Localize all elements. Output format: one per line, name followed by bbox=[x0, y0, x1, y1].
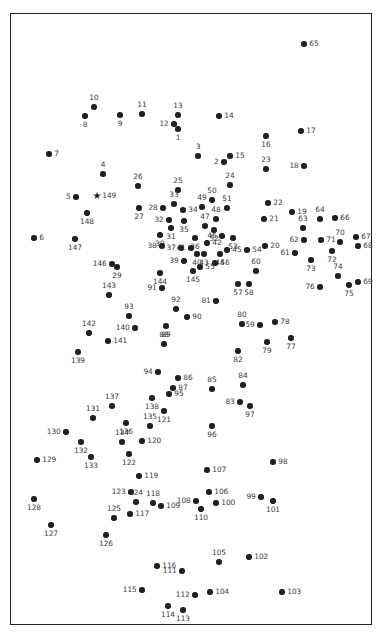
point-label: 9 bbox=[118, 120, 123, 128]
point-label: 104 bbox=[215, 588, 229, 596]
scatter-point bbox=[335, 273, 340, 278]
point-label: 100 bbox=[221, 499, 235, 507]
scatter-point bbox=[346, 282, 351, 287]
point-label: 121 bbox=[157, 416, 171, 424]
scatter-point bbox=[106, 292, 111, 297]
point-label: 117 bbox=[135, 510, 149, 518]
point-label: 33 bbox=[169, 191, 178, 199]
scatter-point bbox=[73, 194, 78, 199]
scatter-point bbox=[353, 234, 358, 239]
point-label: 118 bbox=[146, 490, 160, 498]
scatter-point bbox=[288, 335, 293, 340]
point-label: 18 bbox=[289, 162, 298, 170]
scatter-point bbox=[318, 237, 323, 242]
scatter-point bbox=[155, 369, 160, 374]
scatter-point bbox=[86, 330, 91, 335]
point-label: 133 bbox=[84, 462, 98, 470]
point-label: 141 bbox=[113, 337, 127, 345]
scatter-point bbox=[88, 454, 93, 459]
point-label: 39 bbox=[169, 257, 178, 265]
point-label: 31 bbox=[166, 233, 175, 241]
point-label: 51 bbox=[222, 195, 231, 203]
scatter-point bbox=[235, 348, 240, 353]
point-label: 137 bbox=[105, 393, 119, 401]
point-label: 99 bbox=[246, 493, 255, 501]
scatter-points-layer: 1234567891011121314151617181920212223242… bbox=[11, 14, 373, 626]
scatter-point bbox=[246, 554, 251, 559]
scatter-point bbox=[213, 298, 218, 303]
scatter-point bbox=[181, 218, 186, 223]
scatter-point bbox=[207, 589, 212, 594]
scatter-point bbox=[165, 603, 170, 608]
scatter-point bbox=[175, 112, 180, 117]
scatter-point bbox=[82, 113, 87, 118]
scatter-point bbox=[161, 341, 166, 346]
point-label: 32 bbox=[154, 216, 163, 224]
point-label: 94 bbox=[143, 368, 152, 376]
figure-container: 1234567891011121314151617181920212223242… bbox=[0, 0, 382, 641]
point-label: 144 bbox=[153, 278, 167, 286]
scatter-point bbox=[301, 237, 306, 242]
point-label: 115 bbox=[123, 586, 137, 594]
scatter-point bbox=[213, 500, 218, 505]
point-label: 84 bbox=[238, 372, 247, 380]
point-label: 90 bbox=[192, 313, 201, 321]
scatter-point bbox=[31, 235, 36, 240]
point-label: 127 bbox=[44, 530, 58, 538]
scatter-point bbox=[100, 171, 105, 176]
scatter-point bbox=[263, 133, 268, 138]
scatter-point bbox=[181, 258, 186, 263]
scatter-point bbox=[135, 183, 140, 188]
point-label: 14 bbox=[224, 112, 233, 120]
point-label: 92 bbox=[171, 296, 180, 304]
scatter-point bbox=[262, 243, 267, 248]
point-label: 128 bbox=[27, 504, 41, 512]
scatter-point bbox=[132, 325, 137, 330]
scatter-point bbox=[270, 498, 275, 503]
scatter-point bbox=[197, 264, 202, 269]
scatter-point bbox=[289, 209, 294, 214]
point-label: 122 bbox=[122, 459, 136, 467]
point-label: 138 bbox=[145, 403, 159, 411]
point-label: 146 bbox=[93, 260, 107, 268]
point-label: 16 bbox=[261, 141, 270, 149]
scatter-point bbox=[337, 239, 342, 244]
scatter-point bbox=[160, 205, 165, 210]
scatter-point bbox=[147, 423, 152, 428]
point-label: 124 bbox=[129, 489, 143, 497]
scatter-point bbox=[264, 339, 269, 344]
scatter-point bbox=[139, 438, 144, 443]
point-label: 116 bbox=[162, 562, 176, 570]
scatter-point bbox=[114, 264, 119, 269]
point-label: 57 bbox=[233, 289, 242, 297]
point-label: 2 bbox=[214, 158, 219, 166]
point-label: 102 bbox=[254, 553, 268, 561]
scatter-point bbox=[301, 41, 306, 46]
point-label: 27 bbox=[134, 213, 143, 221]
scatter-point bbox=[133, 499, 138, 504]
scatter-point bbox=[188, 245, 193, 250]
point-label: 76 bbox=[305, 283, 314, 291]
scatter-point bbox=[301, 163, 306, 168]
point-label: 22 bbox=[273, 199, 282, 207]
point-label: 105 bbox=[212, 549, 226, 557]
point-label: 48 bbox=[211, 206, 220, 214]
point-label: 23 bbox=[261, 156, 270, 164]
scatter-point bbox=[317, 284, 322, 289]
scatter-point bbox=[221, 159, 226, 164]
point-label: 78 bbox=[280, 318, 289, 326]
scatter-point bbox=[90, 415, 95, 420]
point-label: 73 bbox=[306, 265, 315, 273]
scatter-point bbox=[199, 204, 204, 209]
scatter-point bbox=[237, 399, 242, 404]
point-label: 135 bbox=[143, 413, 157, 421]
point-label: 12 bbox=[159, 120, 168, 128]
scatter-point bbox=[261, 216, 266, 221]
point-label: 79 bbox=[262, 347, 271, 355]
point-label: 120 bbox=[147, 437, 161, 445]
point-label: 70 bbox=[335, 229, 344, 237]
scatter-point bbox=[154, 563, 159, 568]
point-label: 54 bbox=[252, 246, 261, 254]
point-label: 66 bbox=[340, 214, 349, 222]
point-label: 147 bbox=[68, 244, 82, 252]
